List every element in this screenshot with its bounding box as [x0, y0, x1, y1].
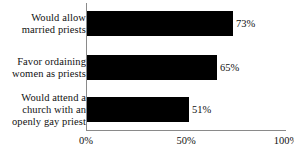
category-label-0: Would allow married priests — [0, 12, 86, 36]
bar-value-0: 73% — [236, 18, 255, 30]
bar-2 — [87, 97, 189, 122]
category-label-2-line-1: church with an — [0, 104, 86, 116]
bar-value-2: 51% — [192, 104, 211, 116]
category-label-2-line-0: Would attend a — [0, 92, 86, 104]
category-label-1: Favor ordaining women as priests — [0, 56, 86, 80]
x-tick-label-1: 50% — [166, 134, 206, 147]
x-tick-label-0: 0% — [66, 134, 106, 147]
bar-1 — [87, 55, 217, 80]
category-label-0-line-0: Would allow — [0, 12, 86, 24]
plot-area: 73% 65% 51% 0% 50% 100% — [86, 0, 286, 131]
x-axis-line — [86, 130, 286, 131]
bar-chart: Would allow married priests Favor ordain… — [0, 0, 294, 152]
category-label-1-line-1: women as priests — [0, 68, 86, 80]
bar-value-1: 65% — [220, 62, 239, 74]
category-label-2: Would attend a church with an openly gay… — [0, 92, 86, 129]
x-tick-label-2: 100% — [266, 134, 294, 147]
category-label-1-line-0: Favor ordaining — [0, 56, 86, 68]
bar-0 — [87, 11, 233, 36]
category-label-2-line-2: openly gay priest — [0, 116, 86, 128]
category-label-0-line-1: married priests — [0, 24, 86, 36]
